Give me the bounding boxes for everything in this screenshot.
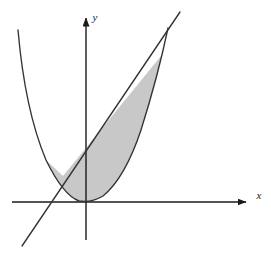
straight-line-curve <box>22 12 180 246</box>
figure-container: x y <box>0 0 271 254</box>
calculus-area-between-curves-figure: x y <box>0 0 271 254</box>
shaded-region-between-curves <box>46 56 161 201</box>
y-axis-label: y <box>92 11 98 23</box>
x-axis-label: x <box>256 189 262 201</box>
